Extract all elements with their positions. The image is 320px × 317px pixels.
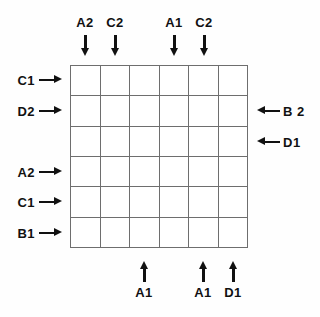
grid-cell [159, 126, 189, 156]
arrow-shaft [143, 268, 146, 282]
arrow-shaft [39, 79, 55, 82]
grid-cell [100, 96, 130, 126]
arrow-shaft [264, 141, 280, 144]
bottom-marker-label-3: D1 [224, 286, 242, 299]
bottom-marker-arrow-up-3 [229, 260, 238, 282]
arrow-shaft [39, 232, 55, 235]
table-row [71, 66, 248, 96]
grid-cell [218, 156, 248, 186]
grid-cell [189, 66, 219, 96]
arrow-shaft [202, 268, 205, 282]
grid-cell [159, 156, 189, 186]
arrow-shaft [39, 201, 55, 204]
bottom-marker-label-1: A1 [135, 286, 153, 299]
arrow-head [170, 48, 178, 56]
grid-cell [130, 217, 160, 247]
top-marker-arrow-down-3 [170, 35, 179, 57]
grid-cell [130, 66, 160, 96]
grid-cell [100, 217, 130, 247]
table-row [71, 217, 248, 247]
left-marker-arrow-right-3 [39, 166, 63, 178]
grid-cell [130, 96, 160, 126]
grid-cell [71, 66, 101, 96]
bottom-marker-arrow-up-1 [140, 260, 149, 282]
left-marker-label-4: C1 [10, 196, 35, 209]
grid-cell [71, 156, 101, 186]
grid-cell [100, 187, 130, 217]
arrow-head [54, 75, 62, 83]
grid-cell [218, 217, 248, 247]
grid-cell [159, 66, 189, 96]
arrow-head [229, 261, 237, 269]
left-marker-label-5: B1 [10, 227, 35, 240]
bottom-marker-label-2: A1 [194, 286, 212, 299]
arrow-head [54, 106, 62, 114]
top-marker-label-4: C2 [195, 16, 213, 29]
arrow-head [199, 261, 207, 269]
grid-cell [71, 96, 101, 126]
left-marker-arrow-right-4 [39, 196, 63, 208]
arrow-head [54, 167, 62, 175]
left-marker-arrow-right-1 [39, 74, 63, 86]
arrow-head [54, 197, 62, 205]
top-marker-label-3: A1 [165, 16, 183, 29]
grid-cell [218, 96, 248, 126]
grid-table [70, 65, 248, 248]
top-marker-label-1: A2 [76, 16, 94, 29]
arrow-head [54, 228, 62, 236]
arrow-head [111, 48, 119, 56]
grid-cell [100, 126, 130, 156]
grid-container [70, 65, 248, 248]
bottom-marker-arrow-up-2 [199, 260, 208, 282]
top-marker-arrow-down-1 [81, 35, 90, 57]
grid-cell [189, 187, 219, 217]
grid-cell [130, 126, 160, 156]
arrow-head [257, 106, 265, 114]
arrow-head [200, 48, 208, 56]
grid-cell [130, 187, 160, 217]
grid-cell [100, 156, 130, 186]
left-marker-label-2: D2 [10, 105, 35, 118]
right-marker-label-2: D1 [283, 136, 301, 149]
arrow-shaft [39, 171, 55, 174]
grid-cell [100, 66, 130, 96]
table-row [71, 96, 248, 126]
grid-cell [189, 217, 219, 247]
grid-cell [218, 187, 248, 217]
grid-body [71, 66, 248, 248]
left-marker-label-3: A2 [10, 166, 35, 179]
arrow-head [81, 48, 89, 56]
grid-cell [71, 217, 101, 247]
arrow-head [257, 137, 265, 145]
grid-cell [189, 156, 219, 186]
grid-cell [189, 126, 219, 156]
arrow-shaft [232, 268, 235, 282]
arrow-shaft [114, 35, 117, 49]
right-marker-label-1: B 2 [283, 105, 305, 118]
grid-cell [218, 126, 248, 156]
left-marker-label-1: C1 [10, 74, 35, 87]
grid-cell [189, 96, 219, 126]
right-marker-arrow-left-1 [256, 105, 280, 117]
diagram-canvas: A2 C2 A1 C2 C1 D2 A2 C1 B1 [0, 0, 320, 317]
table-row [71, 156, 248, 186]
arrow-shaft [84, 35, 87, 49]
grid-cell [159, 217, 189, 247]
grid-cell [71, 187, 101, 217]
left-marker-arrow-right-2 [39, 105, 63, 117]
arrow-shaft [39, 110, 55, 113]
grid-cell [130, 156, 160, 186]
grid-cell [159, 96, 189, 126]
grid-cell [218, 66, 248, 96]
right-marker-arrow-left-2 [256, 136, 280, 148]
grid-cell [71, 126, 101, 156]
top-marker-arrow-down-2 [111, 35, 120, 57]
arrow-head [140, 261, 148, 269]
grid-cell [159, 187, 189, 217]
arrow-shaft [203, 35, 206, 49]
top-marker-label-2: C2 [106, 16, 124, 29]
arrow-shaft [173, 35, 176, 49]
arrow-shaft [264, 110, 280, 113]
table-row [71, 126, 248, 156]
left-marker-arrow-right-5 [39, 227, 63, 239]
